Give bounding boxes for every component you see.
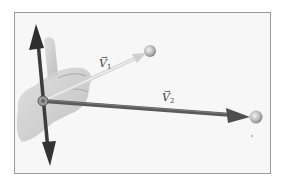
axis-up-arrowhead-icon (29, 24, 44, 50)
stray-dot (251, 135, 253, 137)
v2-subscript: 2 (170, 97, 174, 105)
v2-endpoint-sphere (250, 111, 263, 124)
v2-label: →V2 (162, 92, 174, 105)
vector-arrow-icon: → (101, 54, 108, 62)
origin-joint (38, 96, 48, 106)
v1-subscript: 1 (107, 63, 111, 71)
vector-v2-arrow (43, 100, 263, 124)
axis-down-arrowhead-icon (42, 141, 56, 166)
v1-label: →V1 (99, 58, 111, 71)
right-hand-rule-diagram (0, 0, 287, 185)
v1-endpoint-sphere (144, 45, 156, 57)
vector-arrow-icon: → (164, 88, 171, 96)
hand-icon (17, 37, 92, 142)
